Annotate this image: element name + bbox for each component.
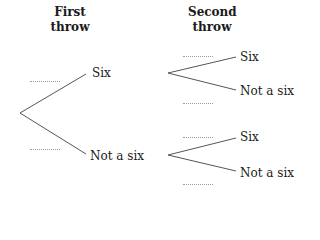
branch-not-six-not-six xyxy=(168,155,236,171)
probability-blank-six-six[interactable] xyxy=(183,56,213,57)
branch-first-six xyxy=(20,74,86,113)
outcome-first-six: Six xyxy=(92,66,111,80)
outcome-not-six-six: Six xyxy=(240,130,259,144)
probability-blank-not-six-not-six[interactable] xyxy=(183,184,213,185)
probability-blank-not-six-six[interactable] xyxy=(183,137,213,138)
outcome-not-six-not-six: Not a six xyxy=(240,166,294,180)
probability-blank-six-not-six[interactable] xyxy=(183,103,213,104)
outcome-first-not-six: Not a six xyxy=(90,149,144,163)
outcome-six-not-six: Not a six xyxy=(240,84,294,98)
branch-six-not-six xyxy=(168,73,236,90)
probability-blank-first-six[interactable] xyxy=(30,81,60,82)
probability-blank-first-not-six[interactable] xyxy=(30,149,60,150)
branch-first-not-six xyxy=(20,113,86,154)
branch-six-six xyxy=(168,57,236,73)
branch-not-six-six xyxy=(168,138,236,155)
outcome-six-six: Six xyxy=(240,50,259,64)
